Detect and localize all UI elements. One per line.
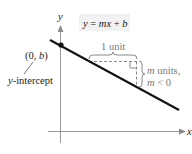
rise-label-line1: m units, <box>147 65 180 76</box>
run-label: 1 unit <box>101 41 125 52</box>
equation-text: y = mx + b <box>82 18 128 29</box>
rise-label-line2: m < 0 <box>147 77 171 88</box>
pointer-line <box>24 62 33 74</box>
point-label: (0, b) <box>25 50 48 62</box>
y-intercept-point <box>58 42 63 47</box>
right-angle-marker <box>130 62 136 68</box>
rise-brace <box>139 61 145 87</box>
run-brace <box>89 52 137 59</box>
slope-intercept-diagram: y = mx + b y x 1 unit m units, m < 0 (0,… <box>0 0 192 154</box>
y-intercept-label: y-intercept <box>7 75 53 86</box>
y-axis-label: y <box>57 11 63 22</box>
x-axis-label: x <box>186 126 192 137</box>
equation-box: y = mx + b <box>79 14 130 31</box>
